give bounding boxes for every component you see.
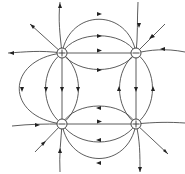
charge-negative-bottom-left [57,119,67,129]
charge-negative-top-right [131,48,141,58]
charge-positive-top-left [57,48,67,58]
charge-positive-bottom-right [131,119,141,129]
field-diagram [0,0,185,174]
arrowheads [9,3,168,172]
field-lines [8,2,185,172]
